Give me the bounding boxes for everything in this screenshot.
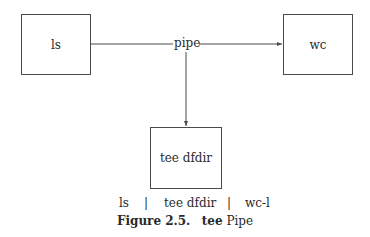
command-part-ls: ls xyxy=(119,196,129,210)
node-tee: tee dfdir xyxy=(150,127,222,189)
command-pipe-1: | xyxy=(144,196,148,210)
node-ls: ls xyxy=(21,14,91,75)
node-ls-label: ls xyxy=(51,38,61,52)
command-pipe-2: | xyxy=(227,196,231,210)
figure-caption: Figure 2.5. tee Pipe xyxy=(0,214,370,228)
pipe-label: pipe xyxy=(174,36,200,50)
node-wc: wc xyxy=(283,14,353,75)
command-part-tee: tee dfdir xyxy=(164,196,216,210)
caption-text: Pipe xyxy=(226,214,253,228)
figure-number: Figure 2.5. xyxy=(117,214,190,228)
node-tee-label: tee dfdir xyxy=(160,151,212,165)
node-wc-label: wc xyxy=(310,38,327,52)
caption-command: tee xyxy=(202,214,223,228)
command-part-wc: wc-l xyxy=(245,196,270,210)
